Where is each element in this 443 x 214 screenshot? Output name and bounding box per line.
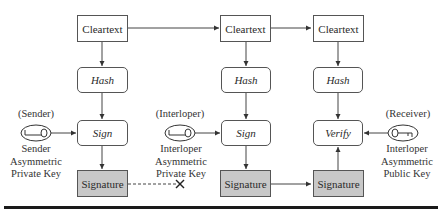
interloper-sign-label: Sign bbox=[236, 127, 256, 139]
interloper-key-icon bbox=[165, 125, 195, 141]
sender-sign-box: Sign bbox=[77, 120, 128, 146]
receiver-cleartext-box: Cleartext bbox=[313, 15, 364, 42]
interloper-signature-box: Signature bbox=[220, 170, 271, 197]
interloper-hash-label: Hash bbox=[234, 74, 257, 86]
sender-signature-box: Signature bbox=[77, 170, 128, 197]
sender-cleartext-box: Cleartext bbox=[77, 15, 128, 42]
interloper-key-caption: Interloper Asymmetric Private Key bbox=[148, 143, 214, 181]
bottom-rule bbox=[4, 206, 438, 209]
receiver-cleartext-label: Cleartext bbox=[318, 23, 358, 35]
interloper-signature-label: Signature bbox=[224, 178, 266, 190]
x-mark-icon bbox=[176, 180, 184, 188]
receiver-hash-box: Hash bbox=[313, 67, 363, 93]
sender-cleartext-label: Cleartext bbox=[82, 23, 122, 35]
interloper-cleartext-box: Cleartext bbox=[220, 15, 271, 42]
receiver-role-label: (Receiver) bbox=[378, 108, 438, 121]
sender-key-caption: Sender Asymmetric Private Key bbox=[4, 143, 68, 181]
interloper-cleartext-label: Cleartext bbox=[225, 23, 265, 35]
interloper-hash-box: Hash bbox=[221, 67, 271, 93]
sender-key-icon bbox=[21, 125, 51, 141]
sender-hash-box: Hash bbox=[77, 67, 128, 93]
interloper-sign-box: Sign bbox=[221, 120, 271, 146]
receiver-key-caption: Interloper Asymmetric Public Key bbox=[374, 143, 440, 181]
receiver-signature-box: Signature bbox=[313, 170, 364, 197]
receiver-key-icon bbox=[388, 125, 418, 141]
receiver-verify-label: Verify bbox=[325, 127, 351, 139]
sender-hash-label: Hash bbox=[91, 74, 114, 86]
receiver-hash-label: Hash bbox=[326, 74, 349, 86]
receiver-signature-label: Signature bbox=[317, 178, 359, 190]
sender-role-label: (Sender) bbox=[8, 108, 64, 121]
interloper-role-label: (Interloper) bbox=[148, 108, 212, 121]
sender-sign-label: Sign bbox=[93, 127, 113, 139]
sender-signature-label: Signature bbox=[81, 178, 123, 190]
receiver-verify-box: Verify bbox=[313, 120, 363, 146]
